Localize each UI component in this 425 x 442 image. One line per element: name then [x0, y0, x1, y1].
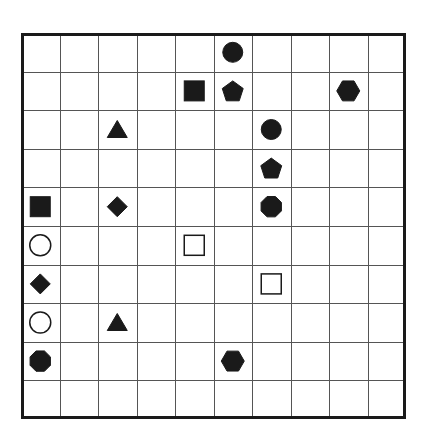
filled-octagon-icon	[261, 197, 281, 217]
filled-octagon-icon	[30, 351, 50, 371]
filled-pentagon-icon	[261, 158, 282, 178]
filled-pentagon-icon	[222, 81, 243, 101]
filled-triangle-icon	[107, 314, 127, 331]
pieces-layer	[30, 42, 360, 371]
filled-triangle-icon	[107, 121, 127, 138]
open-square-icon	[261, 274, 281, 294]
filled-diamond-icon	[107, 197, 127, 217]
filled-circle-icon	[223, 42, 243, 62]
filled-hexagon-icon	[337, 81, 360, 101]
filled-square-icon	[184, 81, 204, 101]
open-square-icon	[184, 235, 204, 255]
grid-canvas	[21, 33, 406, 419]
filled-diamond-icon	[30, 274, 50, 294]
open-circle-icon	[30, 312, 51, 333]
filled-circle-icon	[261, 120, 281, 140]
filled-hexagon-icon	[221, 351, 244, 371]
shape-grid-board	[21, 33, 406, 419]
filled-square-icon	[30, 197, 50, 217]
open-circle-icon	[30, 235, 51, 256]
